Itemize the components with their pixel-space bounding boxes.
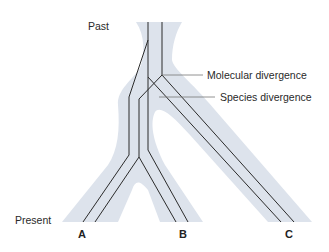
- present-label: Present: [15, 214, 51, 226]
- species-tree-band: [62, 22, 312, 222]
- past-label: Past: [88, 20, 109, 32]
- taxon-b-label: B: [179, 228, 187, 240]
- species-divergence-label: Species divergence: [220, 91, 312, 103]
- taxon-a-label: A: [78, 228, 86, 240]
- taxon-c-label: C: [285, 228, 293, 240]
- molecular-divergence-label: Molecular divergence: [207, 69, 307, 81]
